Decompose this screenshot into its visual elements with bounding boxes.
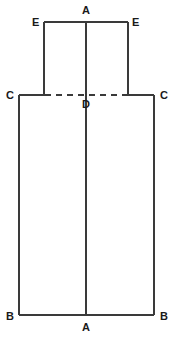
vertex-label-c-right: C: [160, 90, 168, 101]
vertex-label-e-left: E: [32, 17, 39, 28]
vertex-label-e-right: E: [132, 17, 139, 28]
pattern-outline-svg: [0, 0, 174, 356]
diagram-canvas: A E E C C D B B A: [0, 0, 174, 356]
vertex-label-a-bottom: A: [82, 322, 90, 333]
vertex-label-a-top: A: [82, 5, 90, 16]
vertex-label-b-right: B: [160, 311, 168, 322]
vertex-label-b-left: B: [6, 311, 14, 322]
vertex-label-d-center: D: [82, 99, 90, 110]
vertex-label-c-left: C: [6, 90, 14, 101]
